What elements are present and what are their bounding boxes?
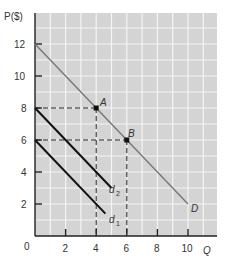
x-tick-6: 6 [124, 243, 130, 254]
curve-d2-subscript: 2 [116, 190, 120, 197]
y-axis-label: P($) [4, 11, 23, 22]
point-a-label: A [99, 97, 107, 108]
y-tick-10: 10 [14, 71, 26, 82]
curve-d1-subscript: 1 [116, 220, 120, 227]
x-tick-2: 2 [63, 243, 69, 254]
origin-label: 0 [24, 241, 30, 252]
x-tick-8: 8 [154, 243, 160, 254]
x-axis-label: Q [203, 245, 211, 256]
y-tick-2: 2 [21, 199, 27, 210]
x-tick-10: 10 [182, 243, 194, 254]
x-tick-4: 4 [93, 243, 99, 254]
y-tick-6: 6 [21, 135, 27, 146]
curve-d2-label: d [109, 184, 115, 195]
y-tick-8: 8 [21, 103, 27, 114]
y-tick-4: 4 [21, 167, 27, 178]
curve-d1-label: d [109, 214, 115, 225]
point-b-label: B [128, 128, 135, 139]
demand-chart: P($) Q 0 2 4 6 8 10 12 10 8 6 4 2 A B D … [0, 0, 227, 260]
curve-d-label: D [191, 203, 198, 214]
y-tick-12: 12 [14, 39, 26, 50]
point-a-marker [94, 106, 99, 111]
